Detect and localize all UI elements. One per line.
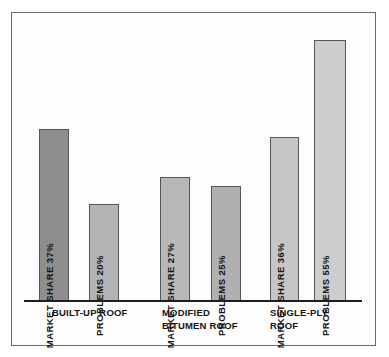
bar-market-share-built-up: MARKET SHARE 37% bbox=[39, 129, 69, 301]
plot-area: MARKET SHARE 37% PROBLEMS 20% MARKET SHA… bbox=[12, 13, 377, 347]
bar-market-share-modified-bitumen: MARKET SHARE 27% bbox=[160, 177, 190, 301]
category-label-modified-bitumen-roof: MODIFIED BITUMEN ROOF bbox=[162, 306, 238, 332]
category-label-built-up-roof: BUILT-UP ROOF bbox=[52, 306, 128, 319]
bar-label-market-share-built-up: MARKET SHARE 37% bbox=[45, 242, 55, 347]
bar-problems-modified-bitumen: PROBLEMS 25% bbox=[211, 186, 241, 301]
bar-market-share-single-ply: MARKET SHARE 36% bbox=[270, 137, 299, 301]
bar-problems-built-up: PROBLEMS 20% bbox=[89, 204, 119, 301]
chart-frame: MARKET SHARE 37% PROBLEMS 20% MARKET SHA… bbox=[11, 12, 376, 346]
category-label-single-ply-roof: SINGLE-PLY ROOF bbox=[270, 306, 328, 332]
bar-label-problems-built-up: PROBLEMS 20% bbox=[95, 255, 105, 336]
x-axis-line bbox=[24, 300, 362, 302]
bar-problems-single-ply: PROBLEMS 55% bbox=[314, 40, 346, 301]
